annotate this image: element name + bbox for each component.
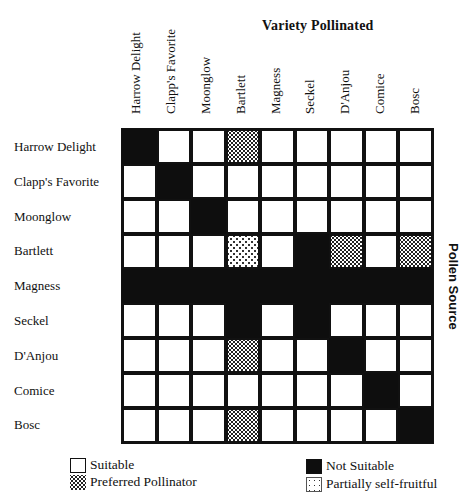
grid-cell — [124, 340, 155, 371]
grid-cell — [398, 269, 433, 304]
pollination-grid — [121, 128, 434, 444]
legend-label: Preferred Pollinator — [90, 474, 197, 490]
grid-cell — [366, 305, 397, 336]
grid-cell — [228, 131, 259, 162]
grid-cell — [331, 236, 362, 267]
grid-cell — [193, 166, 224, 197]
grid-cell — [297, 201, 328, 232]
grid-cell — [366, 340, 397, 371]
grid-cell — [122, 269, 157, 304]
suitable-swatch-icon — [70, 458, 86, 473]
grid-cell — [400, 340, 431, 371]
grid-cell — [331, 201, 362, 232]
grid-cell — [124, 201, 155, 232]
row-label: Clapp's Favorite — [14, 165, 99, 200]
grid-cell — [329, 338, 364, 373]
grid-cell — [400, 236, 431, 267]
grid-cell — [226, 303, 261, 338]
preferred-swatch-icon — [70, 475, 86, 490]
grid-cell — [191, 269, 226, 304]
grid-cell — [297, 340, 328, 371]
column-label-text: Bartlett — [233, 75, 237, 114]
grid-cell — [159, 340, 190, 371]
grid-cell — [400, 375, 431, 406]
legend-partially-self-fruitful: Partially self-fruitful — [306, 476, 437, 492]
grid-cell — [400, 166, 431, 197]
column-label: Clapp's Favorite — [156, 0, 191, 118]
column-label-text: Clapp's Favorite — [163, 29, 167, 114]
grid-cell — [159, 375, 190, 406]
grid-cell — [400, 201, 431, 232]
grid-cell — [295, 234, 330, 269]
grid-cell — [295, 303, 330, 338]
column-label: Harrow Delight — [121, 0, 156, 118]
column-label: Comice — [365, 0, 400, 118]
column-label: Moonglow — [191, 0, 226, 118]
grid-cell — [400, 131, 431, 162]
self-fruitful-swatch-icon — [306, 477, 322, 492]
grid-cell — [366, 201, 397, 232]
grid-cell — [124, 236, 155, 267]
column-label-text: Seckel — [302, 79, 306, 114]
grid-cell — [159, 131, 190, 162]
grid-cell — [159, 236, 190, 267]
grid-cell — [262, 131, 293, 162]
grid-cell — [124, 410, 155, 441]
grid-cell — [400, 305, 431, 336]
grid-cell — [228, 410, 259, 441]
column-label: Seckel — [295, 0, 330, 118]
legend-preferred: Preferred Pollinator — [70, 474, 197, 490]
grid-cell — [193, 131, 224, 162]
grid-cell — [331, 305, 362, 336]
legend-suitable: Suitable — [70, 457, 134, 473]
row-label: Harrow Delight — [14, 130, 96, 165]
axis-label-pollen-source: Pollen Source — [446, 243, 461, 330]
legend-not-suitable: Not Suitable — [306, 458, 394, 474]
grid-cell — [262, 340, 293, 371]
grid-cell — [228, 201, 259, 232]
row-label: Seckel — [14, 304, 49, 339]
row-label: Bosc — [14, 408, 40, 443]
grid-cell — [228, 236, 259, 267]
grid-cell — [366, 131, 397, 162]
grid-cell — [262, 236, 293, 267]
grid-cell — [228, 340, 259, 371]
grid-cell — [226, 269, 261, 304]
grid-cell — [228, 166, 259, 197]
legend-label: Not Suitable — [326, 458, 394, 474]
grid-cell — [331, 375, 362, 406]
grid-cell — [228, 375, 259, 406]
column-label-text: Magness — [268, 68, 272, 114]
column-label: D'Anjou — [330, 0, 365, 118]
grid-cell — [364, 269, 399, 304]
grid-cell — [159, 410, 190, 441]
grid-cell — [159, 201, 190, 232]
grid-cell — [297, 131, 328, 162]
grid-cell — [262, 201, 293, 232]
grid-cell — [331, 410, 362, 441]
legend-label: Suitable — [90, 457, 134, 473]
column-label: Bosc — [399, 0, 434, 118]
grid-cell — [297, 410, 328, 441]
column-label-text: Bosc — [407, 88, 411, 114]
grid-cell — [331, 166, 362, 197]
grid-cell — [364, 373, 399, 408]
grid-cell — [260, 269, 295, 304]
grid-cell — [366, 410, 397, 441]
grid-cell — [331, 131, 362, 162]
grid-cell — [157, 164, 192, 199]
grid-cell — [193, 410, 224, 441]
grid-cell — [193, 236, 224, 267]
grid-cell — [329, 269, 364, 304]
grid-cell — [262, 305, 293, 336]
grid-cell — [262, 375, 293, 406]
row-label: Bartlett — [14, 234, 53, 269]
grid-cell — [191, 199, 226, 234]
grid-cell — [295, 269, 330, 304]
column-label-text: Harrow Delight — [128, 32, 132, 114]
row-label: Magness — [14, 269, 60, 304]
column-label: Magness — [260, 0, 295, 118]
row-label: D'Anjou — [14, 339, 58, 374]
grid-cell — [297, 166, 328, 197]
grid-cell — [262, 166, 293, 197]
